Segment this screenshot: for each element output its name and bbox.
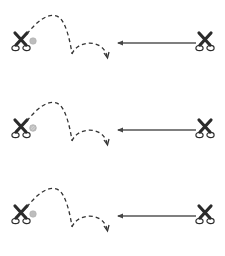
diagram-row-3: [0, 173, 225, 233]
scissors-icon: [12, 33, 30, 51]
left-arrowhead: [117, 41, 123, 46]
diagram-row-2: [0, 87, 225, 147]
ball-icon: [30, 38, 37, 45]
dashed-bounce-arrow: [27, 188, 107, 229]
dashed-bounce-arrow: [27, 102, 107, 143]
scissors-icon: [12, 120, 30, 138]
row-2-graphic: [0, 87, 225, 147]
left-arrowhead: [117, 128, 123, 133]
row-3-graphic: [0, 173, 225, 233]
scissors-icon: [196, 120, 214, 138]
scissors-icon: [196, 206, 214, 224]
dashed-bounce-arrow: [27, 15, 107, 56]
scissors-icon: [196, 33, 214, 51]
ball-icon: [30, 211, 37, 218]
scissors-icon: [12, 206, 30, 224]
left-arrowhead: [117, 214, 123, 219]
diagram-row-1: [0, 0, 225, 60]
ball-icon: [30, 125, 37, 132]
row-1-graphic: [0, 0, 225, 60]
